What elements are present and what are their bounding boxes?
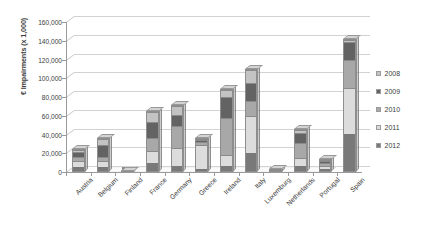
- bar-segment[interactable]: [246, 70, 257, 83]
- bar-segment[interactable]: [172, 126, 183, 149]
- bar-segment[interactable]: [344, 88, 355, 134]
- x-axis-category-label: Spain: [318, 176, 365, 223]
- bar-side-face: [159, 107, 162, 172]
- legend-color-swatch-icon: [376, 107, 381, 112]
- gridline: [74, 16, 370, 17]
- bar-segment[interactable]: [246, 101, 257, 116]
- x-axis-category-labels: AustriaBelgiumFinlandFranceGermanyGreece…: [66, 176, 376, 229]
- gridline-depth-connector: [66, 54, 75, 61]
- bar-segment[interactable]: [172, 166, 183, 171]
- y-axis-tick-label: 140,000: [18, 37, 62, 44]
- bar-segment[interactable]: [344, 60, 355, 88]
- bar-stack[interactable]: [245, 69, 258, 172]
- plot-area: [66, 22, 362, 172]
- bar-side-face: [257, 65, 260, 172]
- bar-segment[interactable]: [147, 151, 158, 163]
- gridline: [74, 54, 370, 55]
- bar-segment[interactable]: [246, 83, 257, 101]
- bar-segment[interactable]: [196, 169, 207, 171]
- bar-stack[interactable]: [171, 105, 184, 172]
- y-axis-tick-mark: [62, 135, 66, 136]
- bar-stack[interactable]: [220, 89, 233, 172]
- x-axis-category-label: Germany: [146, 176, 193, 223]
- x-axis-category-label: Luxemburg: [244, 176, 291, 223]
- legend-item[interactable]: 2009: [376, 82, 423, 100]
- legend-color-swatch-icon: [376, 89, 381, 94]
- y-axis-tick-label: 60,000: [18, 112, 62, 119]
- bar-segment[interactable]: [246, 153, 257, 171]
- impairments-stacked-bar-chart: € Impairments (x 1,000) 160,000140,00012…: [0, 0, 423, 229]
- bar-segment[interactable]: [98, 167, 109, 171]
- bar-stack[interactable]: [146, 111, 159, 172]
- gridline-depth-connector: [66, 72, 75, 79]
- y-axis-tick-label: 100,000: [18, 75, 62, 82]
- bar-segment[interactable]: [270, 170, 281, 171]
- bar-segment[interactable]: [344, 134, 355, 171]
- legend-item[interactable]: 2011: [376, 118, 423, 136]
- bar-side-face: [183, 101, 186, 172]
- y-axis-tick-mark: [62, 60, 66, 61]
- bar-segment[interactable]: [221, 166, 232, 171]
- y-axis-tick-mark: [62, 116, 66, 117]
- gridline-depth-connector: [66, 91, 75, 98]
- bar-segment[interactable]: [147, 163, 158, 171]
- y-axis-line: [66, 22, 67, 172]
- bar-segment[interactable]: [295, 133, 306, 143]
- bar-segment[interactable]: [172, 115, 183, 126]
- x-axis-category-label: Portugal: [294, 176, 341, 223]
- y-axis-tick-label: 160,000: [18, 19, 62, 26]
- bar-segment[interactable]: [196, 145, 207, 170]
- legend-color-swatch-icon: [376, 125, 381, 130]
- bar-segment[interactable]: [246, 116, 257, 153]
- bar-side-face: [356, 35, 359, 172]
- bar-segment[interactable]: [147, 122, 158, 138]
- bar-stack[interactable]: [195, 138, 208, 172]
- y-axis-tick-label: 80,000: [18, 94, 62, 101]
- y-axis-tick-mark: [62, 97, 66, 98]
- legend-color-swatch-icon: [376, 143, 381, 148]
- legend-color-swatch-icon: [376, 71, 381, 76]
- gridline-depth-connector: [66, 35, 75, 42]
- legend-label: 2011: [385, 124, 400, 131]
- bar-segment[interactable]: [147, 138, 158, 151]
- bar-segment[interactable]: [320, 169, 331, 171]
- bar-segment[interactable]: [73, 167, 84, 171]
- x-axis-category-label: Belgium: [72, 176, 119, 223]
- bar-segment[interactable]: [295, 166, 306, 171]
- bar-segment[interactable]: [221, 97, 232, 118]
- bar-side-face: [208, 134, 211, 172]
- bar-segment[interactable]: [147, 112, 158, 122]
- bar-stack[interactable]: [343, 39, 356, 172]
- bar-segment[interactable]: [295, 158, 306, 166]
- legend-item[interactable]: 2010: [376, 100, 423, 118]
- gridline-depth-connector: [66, 16, 75, 23]
- legend-label: 2012: [385, 142, 401, 149]
- bar-stack[interactable]: [72, 149, 85, 172]
- bar-side-face: [233, 84, 236, 172]
- bar-segment[interactable]: [221, 90, 232, 97]
- bar-segment[interactable]: [172, 148, 183, 166]
- legend-item[interactable]: 2008: [376, 64, 423, 82]
- bar-segment[interactable]: [221, 155, 232, 166]
- x-axis-category-label: Finland: [96, 176, 143, 223]
- gridline: [74, 72, 370, 73]
- y-axis-tick-mark: [62, 78, 66, 79]
- bar-stack[interactable]: [97, 138, 110, 172]
- legend-item[interactable]: 2012: [376, 136, 423, 154]
- y-axis-tick-labels: 160,000140,000120,000100,00080,00060,000…: [18, 0, 62, 229]
- bar-stack[interactable]: [319, 159, 332, 172]
- bar-segment[interactable]: [295, 143, 306, 157]
- x-axis-category-label: Ireland: [195, 176, 242, 223]
- x-axis-category-label: France: [121, 176, 168, 223]
- y-axis-tick-mark: [62, 153, 66, 154]
- bar-segment[interactable]: [221, 118, 232, 155]
- bar-segment[interactable]: [172, 106, 183, 114]
- bar-side-face: [307, 125, 310, 172]
- y-axis-tick-mark: [62, 41, 66, 42]
- bar-segment[interactable]: [344, 42, 355, 60]
- legend-label: 2009: [385, 88, 401, 95]
- bar-stack[interactable]: [294, 129, 307, 172]
- bar-segment[interactable]: [98, 145, 109, 157]
- gridline-depth-connector: [66, 129, 75, 136]
- legend: 20082009201020112012: [376, 64, 423, 154]
